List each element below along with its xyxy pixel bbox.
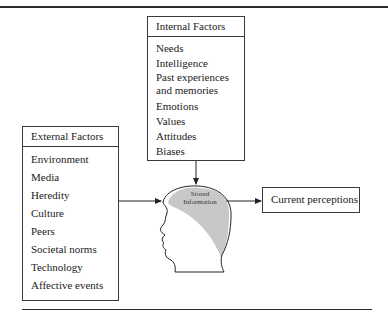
external-factor-item: Technology	[31, 258, 118, 276]
external-factors-title: External Factors	[23, 127, 118, 147]
internal-factors-title: Internal Factors	[148, 17, 244, 37]
external-factor-item: Culture	[31, 204, 118, 222]
external-factors-box: External Factors Environment Media Hered…	[22, 126, 119, 301]
internal-factor-item: Emotions	[156, 99, 244, 114]
internal-factor-item: Needs	[156, 41, 244, 56]
current-perceptions-box: Current perceptions	[262, 187, 360, 213]
external-factor-item: Societal norms	[31, 240, 118, 258]
current-perceptions-label: Current perceptions	[263, 188, 359, 205]
external-factor-item: Peers	[31, 222, 118, 240]
internal-factor-item: Intelligence	[156, 56, 244, 71]
internal-factor-item: Biases	[156, 144, 244, 159]
external-factor-item: Heredity	[31, 186, 118, 204]
external-factor-item: Environment	[31, 150, 118, 168]
external-factor-item: Media	[31, 168, 118, 186]
internal-factor-item: Past experiences and memories	[156, 71, 244, 97]
internal-factor-item: Attitudes	[156, 129, 244, 144]
external-factor-item: Affective events	[31, 276, 118, 294]
internal-factor-item: Values	[156, 114, 244, 129]
internal-factors-box: Internal Factors Needs Intelligence Past…	[147, 16, 245, 161]
stored-label-line2: Information	[180, 198, 220, 206]
stored-label-line1: Stored	[180, 190, 220, 198]
stored-information-label: Stored Information	[180, 190, 220, 206]
